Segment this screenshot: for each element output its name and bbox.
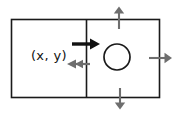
circle-marker (104, 44, 130, 70)
coordinate-label: (x, y) (26, 48, 72, 64)
outer-up-arrow (114, 7, 124, 30)
diagram-canvas: (x, y) (0, 0, 177, 114)
outer-right-arrow (149, 53, 172, 63)
outer-down-arrow (115, 88, 125, 110)
